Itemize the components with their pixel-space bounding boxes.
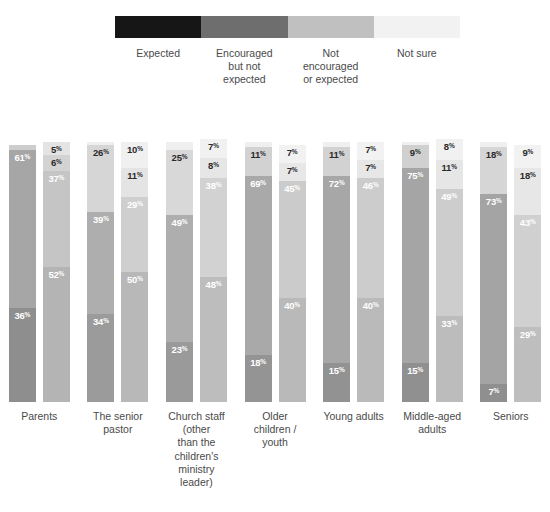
bar-segment-0-1-3[interactable]: 5% (43, 142, 70, 155)
segment-value-label: 9% (514, 147, 541, 158)
segment-value-label: 29% (121, 199, 148, 210)
bar-segment-5-1-2[interactable]: 11% (436, 160, 463, 189)
bar-segment-2-1-3[interactable]: 7% (200, 139, 227, 157)
bar-group-3: 2%11%69%18%7%7%45%40% (236, 112, 315, 402)
bar-segment-3-1-2[interactable]: 7% (279, 163, 306, 181)
bar-segment-4-1-2[interactable]: 7% (357, 160, 384, 178)
bar-segment-3-0-2[interactable]: 11% (245, 147, 272, 176)
segment-value-label: 7% (279, 165, 306, 176)
bar-segment-5-0-2[interactable]: 9% (402, 145, 429, 168)
bar-wrapper-6-1: 9%18%43%29% (514, 112, 541, 402)
stacked-bar-1-1[interactable]: 10%11%29%50% (121, 142, 148, 402)
segment-value-label: 11% (121, 170, 148, 181)
bar-group-5: 1%9%75%15%8%11%49%33% (393, 112, 472, 402)
stacked-bar-5-0[interactable]: 9%75%15% (402, 142, 429, 402)
legend-swatch-2 (288, 16, 374, 38)
bar-segment-6-1-2[interactable]: 18% (514, 168, 541, 215)
segment-value-label: 7% (357, 144, 384, 155)
bar-segment-4-1-1[interactable]: 46% (357, 178, 384, 298)
category-axis-labels: ParentsThe senior pastorChurch staff (ot… (0, 410, 550, 489)
stacked-bar-0-0[interactable]: 61%36% (9, 145, 36, 402)
bar-wrapper-4-1: 7%7%46%40% (357, 112, 384, 402)
bar-wrapper-5-0: 1%9%75%15% (402, 112, 429, 402)
bar-group-6: 2%18%73%7%9%18%43%29% (471, 112, 550, 402)
stacked-bar-6-1[interactable]: 9%18%43%29% (514, 145, 541, 402)
segment-value-label: 33% (436, 318, 463, 329)
category-label-6: Seniors (471, 410, 550, 489)
stacked-bar-0-1[interactable]: 5%6%37%52% (43, 142, 70, 402)
bar-segment-3-0-1[interactable]: 69% (245, 176, 272, 355)
bar-segment-3-0-0[interactable]: 18% (245, 355, 272, 402)
stacked-bar-3-1[interactable]: 7%7%45%40% (279, 145, 306, 402)
stacked-bar-2-1[interactable]: 7%8%38%48% (200, 139, 227, 402)
segment-value-label: 73% (480, 196, 507, 207)
segment-value-label: 11% (323, 149, 350, 160)
bar-segment-6-1-0[interactable]: 29% (514, 327, 541, 402)
bar-segment-1-1-1[interactable]: 29% (121, 197, 148, 272)
stacked-bar-4-1[interactable]: 7%7%46%40% (357, 142, 384, 402)
segment-value-label: 49% (166, 217, 193, 228)
stacked-bar-1-0[interactable]: 26%39%34% (87, 142, 114, 402)
bar-segment-3-1-3[interactable]: 7% (279, 145, 306, 163)
stacked-bar-2-0[interactable]: 25%49%23% (166, 142, 193, 402)
bar-segment-5-1-3[interactable]: 8% (436, 139, 463, 160)
bar-segment-1-0-0[interactable]: 34% (87, 314, 114, 402)
bar-segment-5-1-1[interactable]: 49% (436, 189, 463, 316)
legend-label-3: Not sure (374, 47, 460, 86)
segment-value-label: 75% (402, 170, 429, 181)
bar-segment-2-0-2[interactable]: 25% (166, 150, 193, 215)
bar-segment-3-1-1[interactable]: 45% (279, 181, 306, 298)
bar-wrapper-5-1: 8%11%49%33% (436, 112, 463, 402)
bar-segment-2-1-1[interactable]: 38% (200, 178, 227, 277)
segment-value-label: 72% (323, 178, 350, 189)
bar-segment-1-1-2[interactable]: 11% (121, 168, 148, 197)
legend-swatch-3 (374, 16, 460, 38)
category-label-0: Parents (0, 410, 79, 489)
stacked-bar-5-1[interactable]: 8%11%49%33% (436, 139, 463, 402)
bar-segment-2-0-3[interactable] (166, 142, 193, 150)
segment-value-label: 69% (245, 178, 272, 189)
bar-segment-4-0-2[interactable]: 11% (323, 147, 350, 176)
bar-segment-1-0-2[interactable]: 26% (87, 145, 114, 213)
segment-value-label: 25% (166, 152, 193, 163)
bar-segment-0-1-2[interactable]: 6% (43, 155, 70, 171)
bar-segment-3-1-0[interactable]: 40% (279, 298, 306, 402)
stacked-bar-6-0[interactable]: 18%73%7% (480, 142, 507, 402)
bar-segment-6-0-0[interactable]: 7% (480, 384, 507, 402)
legend-gradient-swatches (115, 16, 460, 38)
bar-segment-6-1-1[interactable]: 43% (514, 215, 541, 327)
bar-segment-2-0-0[interactable]: 23% (166, 342, 193, 402)
segment-value-label: 40% (279, 300, 306, 311)
legend-label-0: Expected (115, 47, 201, 86)
bar-segment-1-0-1[interactable]: 39% (87, 212, 114, 313)
bar-segment-6-0-2[interactable]: 18% (480, 147, 507, 194)
bar-segment-2-0-1[interactable]: 49% (166, 215, 193, 342)
segment-value-label: 10% (121, 144, 148, 155)
bar-segment-0-1-1[interactable]: 37% (43, 171, 70, 267)
category-label-3: Older children / youth (236, 410, 315, 489)
segment-value-label: 61% (9, 152, 36, 163)
legend-label-row: ExpectedEncouraged but not expectedNot e… (115, 47, 460, 86)
stacked-bar-3-0[interactable]: 11%69%18% (245, 142, 272, 402)
bar-segment-4-1-0[interactable]: 40% (357, 298, 384, 402)
bar-segment-5-0-1[interactable]: 75% (402, 168, 429, 363)
bar-segment-4-0-0[interactable]: 15% (323, 363, 350, 402)
segment-value-label: 43% (514, 217, 541, 228)
bar-segment-4-0-1[interactable]: 72% (323, 176, 350, 363)
bar-segment-0-0-1[interactable]: 61% (9, 150, 36, 309)
bar-segment-0-1-0[interactable]: 52% (43, 267, 70, 402)
bar-segment-2-1-2[interactable]: 8% (200, 158, 227, 179)
bar-segment-0-0-0[interactable]: 36% (9, 308, 36, 402)
bar-segment-6-0-1[interactable]: 73% (480, 194, 507, 384)
segment-value-label: 15% (323, 365, 350, 376)
bar-segment-5-1-0[interactable]: 33% (436, 316, 463, 402)
bar-segment-1-1-0[interactable]: 50% (121, 272, 148, 402)
bar-segment-5-0-0[interactable]: 15% (402, 363, 429, 402)
bar-segment-6-1-3[interactable]: 9% (514, 145, 541, 168)
bar-wrapper-2-1: 7%8%38%48% (200, 112, 227, 402)
segment-value-label: 46% (357, 180, 384, 191)
bar-segment-2-1-0[interactable]: 48% (200, 277, 227, 402)
stacked-bar-4-0[interactable]: 11%72%15% (323, 142, 350, 402)
bar-segment-4-1-3[interactable]: 7% (357, 142, 384, 160)
bar-segment-1-1-3[interactable]: 10% (121, 142, 148, 168)
